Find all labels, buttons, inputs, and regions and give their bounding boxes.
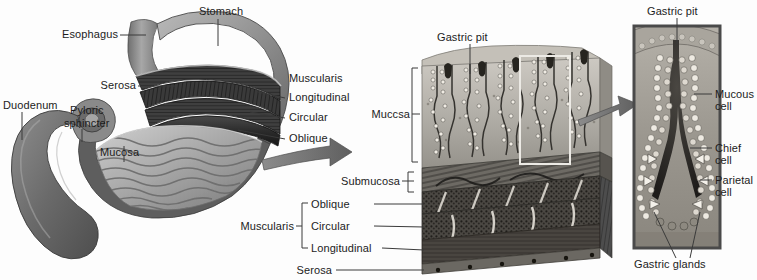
label-parietal-cell-line1: Parietal bbox=[715, 174, 753, 187]
gland-detail-illustration bbox=[634, 24, 720, 248]
label-mucous-cell-line2: cell bbox=[715, 100, 732, 113]
label-serosa-block: Serosa bbox=[282, 264, 332, 277]
label-pyloric-sphincter-line2: sphincter bbox=[64, 117, 110, 130]
label-esophagus: Esophagus bbox=[30, 28, 118, 41]
label-muscularis-gross: Muscularis bbox=[289, 72, 343, 85]
wall-block-illustration bbox=[422, 45, 612, 274]
label-chief-cell-line1: Chief bbox=[715, 142, 741, 155]
label-oblique-block: Oblique bbox=[311, 198, 350, 211]
label-gastric-pit-detail: Gastric pit bbox=[647, 5, 698, 18]
label-pyloric-sphincter-line1: Pyloric bbox=[70, 104, 104, 117]
label-gastric-pit-block: Gastric pit bbox=[437, 31, 488, 44]
label-muscularis-block: Muscularis bbox=[222, 220, 294, 233]
label-parietal-cell-line2: cell bbox=[715, 186, 732, 199]
label-mucosa-gross: Mucosa bbox=[100, 146, 139, 159]
label-longitudinal-block: Longitudinal bbox=[311, 242, 372, 255]
label-oblique-gross: Oblique bbox=[289, 132, 328, 145]
label-circular-block: Circular bbox=[311, 220, 350, 233]
label-stomach: Stomach bbox=[199, 5, 243, 18]
anatomy-figure: Stomach Esophagus Serosa Muscularis Long… bbox=[0, 0, 757, 280]
label-chief-cell-line2: cell bbox=[715, 154, 732, 167]
label-circular-gross: Circular bbox=[289, 111, 328, 124]
label-submucosa-block: Submucosa bbox=[330, 175, 400, 188]
label-mucosa-block: Muccsa bbox=[362, 108, 410, 121]
label-gastric-glands: Gastric glands bbox=[634, 258, 706, 271]
label-mucous-cell-line1: Mucous bbox=[715, 88, 754, 101]
label-longitudinal-gross: Longitudinal bbox=[289, 91, 350, 104]
figure-artwork bbox=[0, 0, 757, 280]
label-serosa-gross: Serosa bbox=[88, 79, 136, 92]
label-duodenum: Duodenum bbox=[3, 99, 58, 112]
